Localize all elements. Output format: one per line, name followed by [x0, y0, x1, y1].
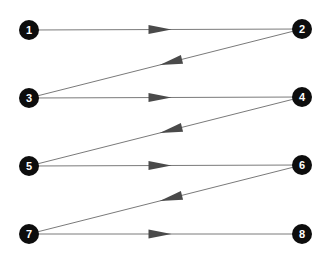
- graph-svg: [0, 0, 330, 256]
- edges-layer: [29, 25, 302, 238]
- arrowhead-icon: [160, 55, 183, 65]
- node-label-6: 6: [292, 155, 312, 175]
- node-label-2: 2: [292, 19, 312, 39]
- diagram-canvas: 1 2 3 4 5 6 7 8: [0, 0, 330, 256]
- node-label-7: 7: [19, 224, 39, 244]
- edge-1-to-2: [29, 25, 302, 34]
- node-label-3: 3: [19, 88, 39, 108]
- node-label-5: 5: [19, 156, 39, 176]
- arrowhead-icon: [160, 191, 183, 201]
- node-label-4: 4: [292, 87, 312, 107]
- edge-7-to-8: [29, 230, 302, 239]
- edge-2-to-3: [29, 29, 302, 98]
- edge-5-to-6: [29, 161, 302, 170]
- arrowhead-icon: [160, 123, 183, 133]
- edge-3-to-4: [29, 93, 302, 102]
- arrowhead-icon: [149, 93, 172, 102]
- arrowhead-icon: [149, 161, 172, 170]
- node-label-8: 8: [292, 224, 312, 244]
- edge-4-to-5: [29, 97, 302, 166]
- arrowhead-icon: [149, 230, 172, 239]
- arrowhead-icon: [149, 25, 172, 34]
- edge-6-to-7: [29, 165, 302, 234]
- node-label-1: 1: [19, 20, 39, 40]
